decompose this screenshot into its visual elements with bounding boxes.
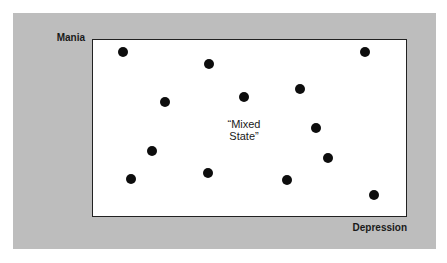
- data-point: [118, 47, 128, 57]
- data-point: [126, 174, 136, 184]
- mixed-state-annotation: “Mixed State”: [209, 118, 279, 142]
- data-point: [360, 47, 370, 57]
- data-point: [239, 92, 249, 102]
- annotation-line-1: “Mixed: [209, 118, 279, 130]
- data-point: [204, 59, 214, 69]
- data-point: [203, 168, 213, 178]
- data-point: [147, 146, 157, 156]
- annotation-line-2: State”: [209, 130, 279, 142]
- data-point: [323, 153, 333, 163]
- data-point: [311, 123, 321, 133]
- x-axis-label: Depression: [353, 222, 407, 233]
- y-axis-label: Mania: [57, 32, 85, 43]
- data-point: [369, 190, 379, 200]
- data-point: [282, 175, 292, 185]
- data-point: [295, 84, 305, 94]
- data-point: [160, 97, 170, 107]
